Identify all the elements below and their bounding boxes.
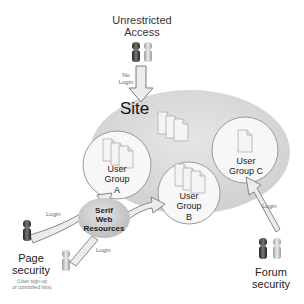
- group-c-document-icon: [238, 130, 252, 152]
- resources-line1: Serif: [80, 206, 128, 215]
- page-security-note2: or controlled lists): [2, 284, 62, 290]
- person-light-icon: [144, 42, 152, 62]
- serif-web-resources-label: Serif Web Resources: [80, 206, 128, 234]
- page-security-label: Page security: [6, 252, 56, 276]
- group-b-line2: Group: [172, 201, 206, 211]
- user-group-c-label: User Group C: [224, 156, 268, 177]
- login-arrow-second: [70, 236, 98, 266]
- group-a-line2: Group: [100, 174, 134, 184]
- page-security-line1: Page: [6, 252, 56, 264]
- no-login-line2: Login: [118, 79, 134, 86]
- person-light-icon: [62, 250, 70, 271]
- group-a-line3: A: [100, 185, 134, 195]
- unrestricted-access-label: Unrestricted Access: [110, 14, 174, 38]
- person-light-icon: [273, 238, 281, 259]
- page-security-note: (User sign-up or controlled lists): [2, 278, 62, 290]
- resources-line2: Web: [80, 215, 128, 224]
- person-dark-icon: [23, 220, 31, 241]
- no-login-line1: No: [118, 72, 134, 79]
- page-login-label-1: Login: [46, 211, 61, 218]
- group-b-line3: B: [172, 212, 206, 222]
- person-dark-icon: [132, 42, 140, 62]
- group-a-line1: User: [100, 164, 134, 174]
- user-group-b-label: User Group B: [172, 191, 206, 222]
- group-c-line2: Group C: [224, 166, 268, 176]
- page-login-label-2: Login: [96, 247, 111, 254]
- resources-line3: Resources: [80, 224, 128, 233]
- group-b-line1: User: [172, 191, 206, 201]
- person-dark-icon: [259, 238, 267, 259]
- site-label: Site: [120, 100, 149, 119]
- forum-security-line2: security: [246, 278, 296, 290]
- user-group-a-label: User Group A: [100, 164, 134, 195]
- page-security-line2: security: [6, 264, 56, 276]
- forum-security-label: Forum security: [246, 266, 296, 290]
- forum-login-label: Login: [262, 203, 277, 210]
- unrestricted-line2: Access: [110, 26, 174, 38]
- no-login-label: No Login: [118, 72, 134, 85]
- group-c-line1: User: [224, 156, 268, 166]
- unrestricted-line1: Unrestricted: [110, 14, 174, 26]
- forum-security-line1: Forum: [246, 266, 296, 278]
